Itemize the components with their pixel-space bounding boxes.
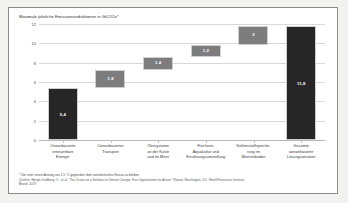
bar-value-label: 1,2 [203, 49, 209, 53]
bar-column: 11,8 [277, 24, 325, 140]
bar-total: 5,4 [48, 88, 78, 140]
bar-value-label: 5,4 [60, 113, 66, 117]
chart-page: Maximale jährliche Emissionsreduktionen … [0, 0, 348, 203]
bar-increment: 1,2 [191, 45, 221, 57]
y-axis-tick-label: 0 [34, 138, 36, 143]
footnotes: * Um unter einem Anstieg von 1,5 °C gege… [19, 173, 331, 187]
y-axis-tick-label: 12 [32, 22, 36, 27]
bar-total: 11,8 [286, 26, 316, 140]
y-axis-tick-label: 6 [34, 80, 36, 85]
bar-increment: 1,8 [95, 70, 125, 87]
y-axis-tick-label: 8 [34, 60, 36, 65]
x-axis-category-label: OzeanbasierterTransport [87, 143, 135, 154]
category-label-line: Energie [39, 154, 87, 160]
bar-value-label: 11,8 [297, 82, 306, 86]
bar-increment: 2 [238, 26, 268, 45]
category-label-line: Ernährungsumstellung [182, 154, 230, 160]
chart-panel: Maximale jährliche Emissionsreduktionen … [8, 7, 338, 194]
bar-increment: 1,4 [143, 57, 173, 71]
x-axis-category-label: Fischerei,Aquakultur undErnährungsumstel… [182, 143, 230, 160]
gridline: 0 [39, 140, 325, 141]
x-axis-categories: OzeanbasierteerneuerbareEnergieOzeanbasi… [39, 143, 325, 173]
chart-title: Maximale jährliche Emissionsreduktionen … [19, 14, 119, 19]
y-axis-tick-label: 10 [32, 41, 36, 46]
bar-column: 1,8 [87, 24, 135, 140]
y-axis-tick-label: 2 [34, 118, 36, 123]
x-axis-category-label: Ökosystemean der Küsteund im Meer [134, 143, 182, 160]
category-label-line: Meeresboden [230, 154, 278, 160]
x-axis-category-label: OzeanbasierteerneuerbareEnergie [39, 143, 87, 160]
footnote-source-line2: Brand: 2019 [19, 182, 331, 187]
bar-series: 5,41,81,41,2211,8 [39, 24, 325, 140]
category-label-line: und im Meer [134, 154, 182, 160]
category-label-line: Lösungsansätze [277, 154, 325, 160]
bar-column: 2 [230, 24, 278, 140]
bar-value-label: 2 [252, 33, 255, 37]
x-axis-category-label: Kohlenstoffspeiche-rung imMeeresboden [230, 143, 278, 160]
x-axis-category-label: GesamteozeanbasierteLösungsansätze [277, 143, 325, 160]
bar-value-label: 1,8 [107, 77, 113, 81]
bar-column: 1,4 [134, 24, 182, 140]
bar-column: 5,4 [39, 24, 87, 140]
bar-value-label: 1,4 [155, 61, 161, 65]
y-axis-tick-label: 4 [34, 99, 36, 104]
category-label-line: Kohlenstoffspeiche- [230, 143, 278, 149]
category-label-line: Transport [87, 149, 135, 155]
bar-column: 1,2 [182, 24, 230, 140]
plot-area: 121086420 5,41,81,41,2211,8 [39, 24, 325, 140]
